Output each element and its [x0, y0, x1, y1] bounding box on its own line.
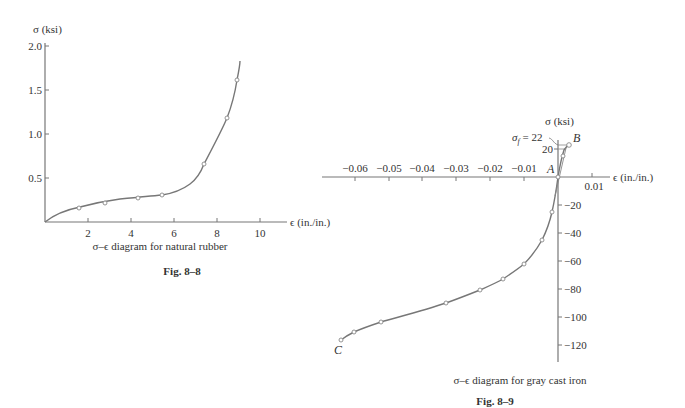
iron-xtick-neg-0.06: −0.06: [342, 162, 368, 174]
rubber-xtick-10: 10: [255, 227, 267, 239]
iron-caption: σ–ϵ diagram for gray cast iron: [454, 374, 587, 386]
iron-ytick-neg-120: −120: [564, 339, 587, 351]
iron-xtick-neg-0.03: −0.03: [443, 162, 469, 174]
rubber-caption: σ–ϵ diagram for natural rubber: [93, 240, 228, 252]
iron-ytick-neg-80: −80: [564, 283, 582, 295]
rubber-figure-label: Fig. 8–8: [163, 265, 201, 277]
rubber-ytick-1.0: 1.0: [28, 128, 42, 140]
rubber-xtick-4: 4: [128, 227, 134, 239]
iron-ytick-20: 20: [542, 143, 554, 155]
iron-chart: −0.06 −0.05 −0.04 −0.03 −0.02 −0.01 0.01…: [322, 115, 654, 407]
rubber-xtick-6: 6: [171, 227, 177, 239]
rubber-ytick-2.0: 2.0: [28, 40, 42, 52]
iron-xtick-neg-0.01: −0.01: [511, 162, 536, 174]
point-label-A: A: [546, 162, 555, 176]
iron-xtick-neg-0.02: −0.02: [477, 162, 502, 174]
iron-x-label: ϵ (in./in.): [613, 171, 654, 184]
figure-canvas: 0.5 1.0 1.5 2.0 2 4 6 8 10 σ (ksi) ϵ (in…: [0, 0, 685, 408]
rubber-curve: [45, 61, 240, 222]
rubber-x-label: ϵ (in./in.): [290, 216, 331, 229]
point-label-C: C: [334, 343, 343, 357]
iron-xtick-0.01: 0.01: [584, 180, 603, 192]
rubber-chart: 0.5 1.0 1.5 2.0 2 4 6 8 10 σ (ksi) ϵ (in…: [28, 23, 330, 277]
rubber-xtick-8: 8: [214, 227, 220, 239]
iron-xtick-neg-0.05: −0.05: [376, 162, 402, 174]
rubber-ytick-0.5: 0.5: [28, 172, 42, 184]
iron-y-label: σ (ksi): [545, 115, 574, 128]
iron-ytick-neg-60: −60: [564, 255, 582, 267]
iron-ytick-neg-100: −100: [564, 311, 587, 323]
iron-ytick-neg-20: −20: [564, 199, 582, 211]
rubber-xtick-2: 2: [85, 227, 91, 239]
point-label-B: B: [573, 131, 581, 145]
iron-ytick-neg-40: −40: [564, 227, 582, 239]
iron-xtick-neg-0.04: −0.04: [409, 162, 435, 174]
iron-curve: [341, 145, 569, 340]
rubber-ytick-1.5: 1.5: [28, 84, 42, 96]
iron-figure-label: Fig. 8–9: [476, 395, 514, 407]
rubber-y-label: σ (ksi): [33, 23, 62, 36]
sigma-f-annotation: σf = 22: [512, 131, 542, 146]
